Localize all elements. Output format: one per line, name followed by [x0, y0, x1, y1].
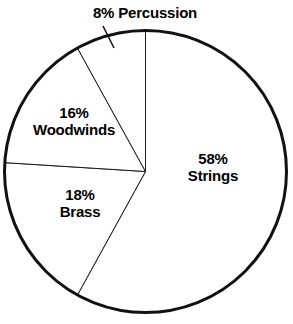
pie-label-brass: 18% Brass [28, 186, 132, 220]
pie-label-strings: 58% Strings [160, 150, 266, 184]
pie-label-brass-name: Brass [28, 203, 132, 220]
pie-label-woodwinds: 16% Woodwinds [18, 104, 130, 138]
pie-label-percussion-percent: 8% [93, 4, 114, 21]
pie-label-strings-percent: 58% [160, 150, 266, 167]
pie-chart: 8% Percussion 16% Woodwinds 18% Brass 58… [0, 0, 293, 324]
pie-label-strings-name: Strings [160, 167, 266, 184]
pie-label-woodwinds-percent: 16% [18, 104, 130, 121]
pie-label-brass-percent: 18% [28, 186, 132, 203]
pie-label-percussion-name: Percussion [118, 4, 197, 21]
pie-label-woodwinds-name: Woodwinds [18, 121, 130, 138]
pie-label-percussion: 8% Percussion [60, 4, 230, 21]
